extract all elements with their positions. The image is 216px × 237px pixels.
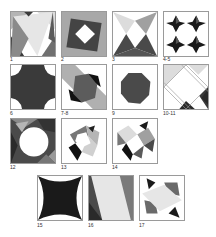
- tile-label-14: 14: [112, 165, 118, 170]
- pattern-12-icon: [11, 119, 55, 163]
- pattern-6-icon: [11, 65, 55, 109]
- pattern-13-icon: [62, 119, 106, 163]
- tile-7-8: [61, 64, 107, 110]
- pattern-14-icon: [113, 119, 157, 163]
- tile-label-6: 6: [10, 111, 13, 116]
- pattern-3-icon: [113, 12, 157, 56]
- tile-17: [139, 175, 185, 221]
- tile-3: [112, 11, 158, 57]
- tile-2: [61, 11, 107, 57]
- tile-label-2: 2: [61, 57, 64, 62]
- tile-label-16: 16: [88, 223, 94, 228]
- tile-label-3: 3: [112, 57, 115, 62]
- pattern-9-icon: [113, 65, 157, 109]
- tile-label-15: 15: [37, 223, 43, 228]
- tile-label-7-8: 7-8: [61, 111, 68, 116]
- tile-label-9: 9: [112, 111, 115, 116]
- tile-label-17: 17: [139, 223, 145, 228]
- pattern-16-icon: [89, 176, 133, 220]
- tile-label-10-11: 10-11: [163, 111, 175, 116]
- tile-12: [10, 118, 56, 164]
- tile-15: [37, 175, 83, 221]
- tile-14: [112, 118, 158, 164]
- tile-label-13: 13: [61, 165, 67, 170]
- tile-4-5: [163, 11, 209, 57]
- pattern-4-5-icon: [164, 12, 208, 56]
- tile-1: [10, 11, 56, 57]
- pattern-1-icon: [11, 12, 55, 56]
- tile-16: [88, 175, 134, 221]
- tile-label-1: 1: [10, 57, 13, 62]
- tile-10-11: [163, 64, 209, 110]
- pattern-2-icon: [62, 12, 106, 56]
- pattern-7-8-icon: [62, 65, 106, 109]
- tile-label-12: 12: [10, 165, 16, 170]
- pattern-15-icon: [38, 176, 82, 220]
- pattern-10-11-icon: [164, 65, 208, 109]
- tile-label-4-5: 4-5: [163, 57, 170, 62]
- tile-6: [10, 64, 56, 110]
- tile-13: [61, 118, 107, 164]
- tile-9: [112, 64, 158, 110]
- pattern-17-icon: [140, 176, 184, 220]
